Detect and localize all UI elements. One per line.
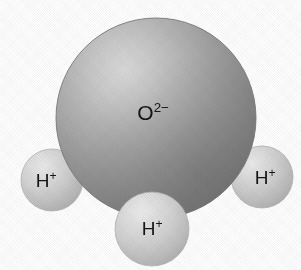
hydrogen-bottom-atom-label: H+ [142,218,163,238]
oxygen-charge-superscript: 2− [154,100,169,115]
water-molecule-figure: O2− H+ H+ H+ [0,0,301,270]
oxygen-element-symbol: O [137,101,153,124]
oxygen-atom-label: O2− [137,101,168,123]
hydrogen-right-atom-label: H+ [255,167,276,187]
hydrogen-left-atom-label: H+ [36,170,57,190]
hydrogen-left-element-symbol: H [36,170,50,191]
hydrogen-bottom-charge-superscript: + [155,217,162,231]
hydrogen-bottom-element-symbol: H [142,218,156,239]
hydrogen-right-element-symbol: H [255,167,269,188]
hydrogen-left-charge-superscript: + [49,169,56,183]
hydrogen-right-charge-superscript: + [268,166,275,180]
